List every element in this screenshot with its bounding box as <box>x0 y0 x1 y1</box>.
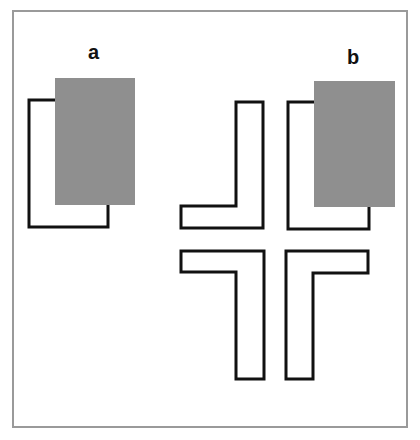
label-a: a <box>88 41 100 63</box>
figure-frame <box>13 11 407 427</box>
panel-b-occluder <box>314 81 395 207</box>
label-b: b <box>347 46 359 68</box>
figure-canvas: a b <box>0 0 420 440</box>
figure: a b <box>0 0 420 440</box>
panel-a-occluder <box>55 78 135 205</box>
